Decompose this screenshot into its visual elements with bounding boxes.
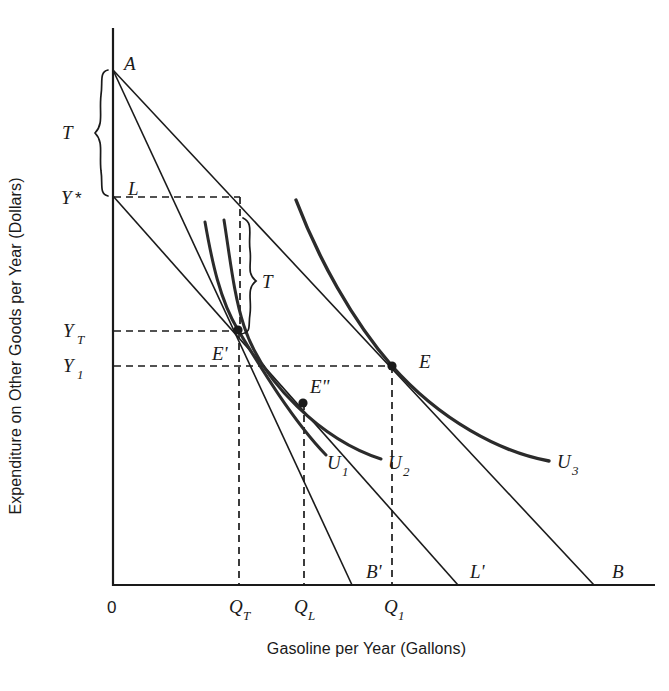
point-labels: A L E' E" E [122, 53, 431, 397]
curve-label-U3-base: U [557, 451, 572, 472]
curve-label-U1-base: U [327, 452, 342, 473]
indifference-curves [205, 200, 549, 461]
y-tick-label-Y_star-base: Y [61, 187, 74, 208]
economics-indifference-curve-diagram: Expenditure on Other Goods per Year (Dol… [0, 0, 669, 691]
dot-E-double-prime [298, 398, 307, 407]
point-label-E-prime: E' [211, 343, 229, 364]
tax-brace-interior-path [241, 218, 256, 334]
dot-E [387, 361, 396, 370]
tax-brace-interior [241, 218, 256, 334]
x-tick-label-origin: 0 [107, 598, 116, 617]
y-tick-label-Y_1-sub: 1 [77, 367, 84, 382]
x-tick-label-Q_T-base: Q [229, 596, 243, 617]
curve-label-U1-sub: 1 [342, 464, 349, 479]
y-tick-label-Y_T-base: Y [63, 320, 76, 341]
x-tick-label-Q_L-sub: L [307, 608, 315, 623]
guide-lines [114, 197, 392, 585]
budget-label-B-prime: B' [366, 561, 383, 582]
y-axis-title: Expenditure on Other Goods per Year (Dol… [0, 0, 32, 691]
budget-line-AB-prime [113, 70, 352, 585]
x-axis-title: Gasoline per Year (Gallons) [0, 640, 669, 658]
y-tick-label-Y_star-sub: * [75, 189, 82, 208]
brace-label-tax-vertical: T [62, 122, 74, 143]
tax-brace-vertical-path [95, 70, 108, 196]
x-tick-label-Q_T-sub: T [243, 608, 251, 623]
plot-canvas: Y * Y T Y 1 0 Q T Q L Q 1 A L E' E" E B [0, 0, 669, 691]
axis-lines [112, 28, 655, 586]
x-tick-label-Q_1-sub: 1 [398, 608, 405, 623]
indifference-curve-labels: U 1 U 2 U 3 [327, 451, 579, 479]
budget-label-B: B [612, 561, 624, 582]
budget-line-labels: B' L' B [366, 561, 624, 582]
point-label-E-double-prime: E" [309, 376, 331, 397]
budget-label-L-prime: L' [469, 561, 486, 582]
indifference-curve-U3 [296, 200, 549, 461]
budget-line-AB [113, 70, 594, 585]
point-label-L: L [127, 178, 139, 199]
y-axis-title-text: Expenditure on Other Goods per Year (Dol… [7, 177, 25, 514]
curve-label-U2-sub: 2 [403, 464, 410, 479]
curve-label-U3-sub: 3 [571, 463, 579, 478]
x-tick-label-Q_1-base: Q [384, 596, 398, 617]
x-axis-title-text: Gasoline per Year (Gallons) [267, 640, 466, 658]
brace-label-tax-interior: T [262, 271, 274, 292]
indifference-curve-U2 [224, 220, 381, 459]
y-tick-labels: Y * Y T Y 1 [61, 187, 85, 382]
point-label-E: E [418, 351, 431, 372]
point-label-A: A [122, 53, 136, 74]
budget-lines [113, 70, 594, 585]
tax-brace-vertical [95, 70, 108, 196]
y-tick-label-Y_T-sub: T [77, 332, 85, 347]
x-tick-label-Q_L-base: Q [294, 596, 308, 617]
curve-label-U2-base: U [388, 452, 403, 473]
y-tick-label-Y_1-base: Y [63, 355, 76, 376]
brace-labels: T T [62, 122, 274, 292]
x-tick-labels: 0 Q T Q L Q 1 [107, 596, 405, 623]
indifference-curve-U1 [205, 222, 326, 455]
